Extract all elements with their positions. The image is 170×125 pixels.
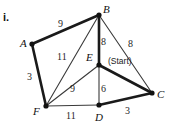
edge-weight-b-e: 8 bbox=[101, 37, 106, 47]
vertex-label-a: A bbox=[20, 38, 27, 49]
start-annotation: (Start) bbox=[108, 57, 132, 66]
graph-vertex-a bbox=[29, 41, 34, 46]
graph-canvas bbox=[0, 0, 170, 125]
edge-weight-f-d: 11 bbox=[66, 111, 76, 121]
graph-edge-f-d bbox=[46, 105, 99, 106]
figure-item-number: i. bbox=[3, 12, 9, 23]
edge-weight-b-c: 8 bbox=[128, 39, 133, 49]
graph-edge-e-c bbox=[99, 65, 152, 93]
graph-figure: 93881196113ABCDEF i. (Start) bbox=[0, 0, 170, 125]
graph-vertex-c bbox=[149, 90, 154, 95]
graph-vertex-e bbox=[96, 62, 101, 67]
edge-weight-a-b: 9 bbox=[58, 19, 63, 29]
graph-vertex-f bbox=[43, 103, 48, 108]
edge-weight-e-f: 9 bbox=[70, 84, 75, 94]
graph-vertex-d bbox=[96, 102, 101, 107]
vertex-label-f: F bbox=[33, 106, 40, 117]
edge-weight-b-f: 11 bbox=[57, 52, 67, 62]
vertex-label-e: E bbox=[86, 52, 93, 63]
graph-vertex-b bbox=[96, 12, 101, 17]
vertex-label-b: B bbox=[103, 4, 110, 15]
edge-weight-d-c: 3 bbox=[125, 106, 130, 116]
vertex-label-d: D bbox=[95, 112, 103, 123]
vertex-label-c: C bbox=[157, 89, 164, 100]
graph-edge-b-c bbox=[99, 15, 152, 93]
edge-weight-e-d: 6 bbox=[101, 84, 106, 94]
graph-edge-a-f bbox=[32, 44, 46, 106]
edge-weight-a-f: 3 bbox=[27, 72, 32, 82]
graph-edge-d-c bbox=[99, 93, 152, 105]
graph-edge-a-b bbox=[32, 15, 99, 44]
